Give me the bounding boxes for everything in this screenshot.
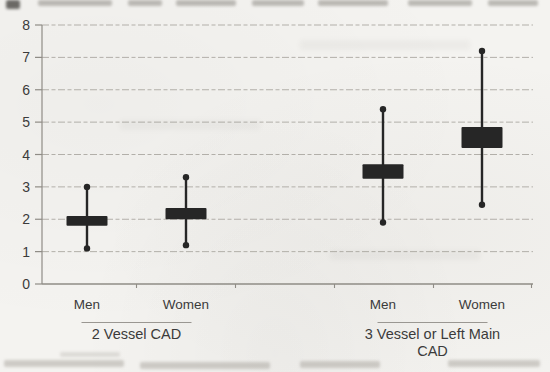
scanned-figure: 012345678MenWomen2 Vessel CADMenWomen3 V… xyxy=(0,0,550,372)
chart-svg: 012345678MenWomen2 Vessel CADMenWomen3 V… xyxy=(0,0,550,372)
y-axis-tick-label: 0 xyxy=(22,276,30,292)
group-label: 3 Vessel or Left Main xyxy=(365,326,500,342)
group-label: 2 Vessel CAD xyxy=(92,326,181,342)
scan-smudge xyxy=(448,360,540,367)
whisker-cap-upper xyxy=(183,174,189,180)
y-axis-tick-label: 4 xyxy=(22,147,30,163)
whisker-cap-upper xyxy=(84,184,90,190)
odds-ratio-box xyxy=(363,164,404,179)
scan-smudge xyxy=(176,0,236,6)
y-axis-tick-label: 2 xyxy=(22,211,30,227)
scan-smudge xyxy=(488,0,538,6)
scan-smudge xyxy=(252,0,304,6)
scan-ghost-text xyxy=(300,40,470,50)
scan-smudge xyxy=(318,0,388,6)
category-label: Men xyxy=(74,297,100,312)
category-label: Women xyxy=(163,297,209,312)
category-label: Men xyxy=(370,297,396,312)
whisker-cap-upper xyxy=(380,106,386,112)
scan-smudge xyxy=(128,0,162,6)
y-axis-tick-label: 8 xyxy=(22,17,30,33)
whisker-cap-lower xyxy=(380,219,386,225)
whisker-cap-lower xyxy=(183,242,189,248)
odds-ratio-box xyxy=(67,216,108,226)
scan-ghost-text xyxy=(120,120,260,130)
scan-smudge xyxy=(300,361,380,368)
odds-ratio-box xyxy=(462,127,503,148)
whisker-cap-lower xyxy=(84,245,90,251)
y-axis-tick-label: 6 xyxy=(22,82,30,98)
scan-smudge xyxy=(60,352,120,357)
group-label: CAD xyxy=(417,343,448,359)
scan-smudge xyxy=(38,0,112,6)
scan-smudge xyxy=(408,0,472,6)
category-label: Women xyxy=(459,297,505,312)
odds-ratio-box xyxy=(166,208,207,219)
y-axis-tick-label: 5 xyxy=(22,114,30,130)
scan-smudge xyxy=(140,362,270,369)
whisker-cap-upper xyxy=(479,48,485,54)
whisker-cap-lower xyxy=(479,201,485,207)
y-axis-tick-label: 1 xyxy=(22,244,30,260)
scan-smudge xyxy=(4,360,124,367)
y-axis-tick-label: 3 xyxy=(22,179,30,195)
scan-ghost-text xyxy=(330,250,480,260)
y-axis-tick-label: 7 xyxy=(22,49,30,65)
scan-smudge xyxy=(6,0,20,9)
